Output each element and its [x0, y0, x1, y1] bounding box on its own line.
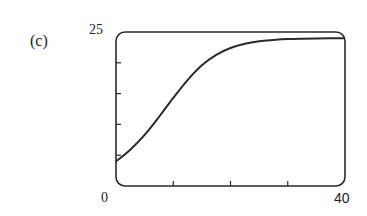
axis-ticks	[116, 63, 288, 186]
chart-plot	[0, 0, 367, 216]
data-line	[116, 38, 345, 161]
plot-frame	[116, 32, 345, 186]
